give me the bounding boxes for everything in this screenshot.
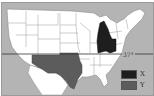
legend-item-x: X	[121, 70, 145, 79]
latitude-label: 37°	[122, 51, 135, 58]
legend-label-x: X	[140, 71, 145, 78]
map-frame: 37° X Y	[1, 2, 154, 96]
legend-swatch-x	[121, 70, 137, 79]
legend-swatch-y	[121, 81, 137, 90]
legend: X Y	[121, 70, 145, 92]
legend-label-y: Y	[140, 82, 145, 89]
legend-item-y: Y	[121, 81, 145, 90]
